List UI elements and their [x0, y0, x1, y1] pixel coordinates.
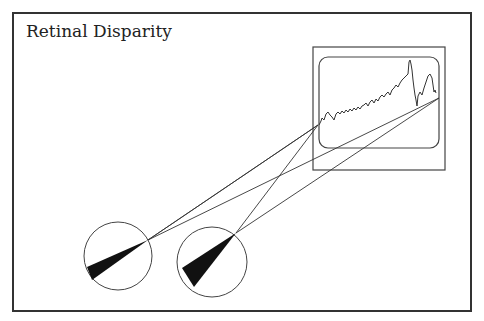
retinal-disparity-diagram	[0, 0, 484, 321]
sight-lines	[148, 98, 439, 240]
right-eye-icon	[177, 227, 247, 297]
monitor-frame	[313, 47, 445, 170]
monitor-screen	[319, 57, 439, 148]
stock-chart-line	[319, 60, 436, 125]
